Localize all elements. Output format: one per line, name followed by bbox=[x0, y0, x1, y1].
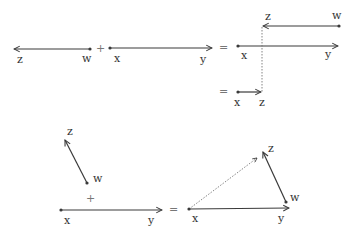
tail-dot bbox=[337, 24, 340, 27]
equals-sign: = bbox=[219, 85, 228, 98]
equals-sign: = bbox=[169, 203, 178, 216]
side-arrow-w-to-z bbox=[263, 152, 286, 202]
top-term2-arrow-x-to-y: x y bbox=[108, 46, 212, 66]
top-result-lower-arrow-x-to-y: x y bbox=[236, 44, 338, 62]
label-x: x bbox=[192, 212, 199, 225]
label-z: z bbox=[17, 53, 23, 66]
label-w: w bbox=[290, 191, 300, 204]
tail-dot bbox=[85, 181, 88, 184]
tail-dot bbox=[236, 90, 239, 93]
label-z: z bbox=[268, 142, 274, 155]
equals-sign: = bbox=[219, 41, 228, 54]
label-y: y bbox=[324, 48, 332, 61]
plus-sign: + bbox=[86, 192, 95, 205]
top-term1-arrow-w-to-z: z w bbox=[14, 47, 92, 66]
label-y: y bbox=[199, 53, 207, 66]
label-x: x bbox=[241, 49, 248, 62]
bottom-term2-arrow-x-to-y: x y bbox=[59, 208, 162, 227]
bottom-term1-arrow-w-to-z: z w bbox=[65, 125, 103, 185]
tail-dot bbox=[108, 46, 111, 49]
label-w: w bbox=[82, 52, 92, 65]
label-y: y bbox=[277, 212, 285, 225]
label-z: z bbox=[265, 10, 271, 23]
label-x: x bbox=[114, 52, 121, 65]
label-z: z bbox=[67, 125, 73, 138]
base-arrow-x-to-y bbox=[189, 208, 289, 209]
tail-dot bbox=[88, 47, 91, 50]
tail-dot bbox=[236, 44, 239, 47]
tail-dot bbox=[284, 200, 287, 203]
resultant-dotted-arrow bbox=[189, 158, 257, 209]
label-x: x bbox=[64, 214, 71, 227]
vector-addition-diagram: z w + x y = z w x y = x z z w + bbox=[0, 0, 353, 240]
top-composite-arrow-x-to-z: x z bbox=[234, 90, 265, 109]
bottom-triangle: x y z w bbox=[187, 142, 300, 225]
label-w: w bbox=[93, 172, 103, 185]
label-x: x bbox=[234, 96, 241, 109]
label-w: w bbox=[332, 9, 342, 22]
tail-dot bbox=[59, 208, 62, 211]
top-result-upper-arrow-w-to-z: z w bbox=[263, 9, 342, 28]
label-y: y bbox=[147, 214, 155, 227]
label-z: z bbox=[259, 96, 265, 109]
tail-dot bbox=[187, 207, 190, 210]
plus-sign: + bbox=[96, 42, 105, 55]
